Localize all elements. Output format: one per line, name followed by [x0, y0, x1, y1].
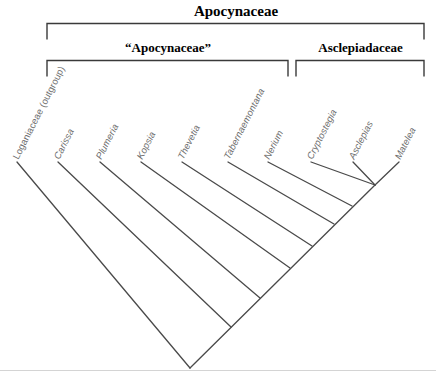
cladogram-figure: Apocynaceae “Apocynaceae” Asclepiadaceae…: [0, 0, 436, 382]
figure-frame: [0, 0, 436, 382]
